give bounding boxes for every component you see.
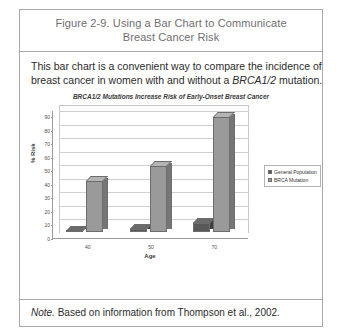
y-tick-label: 40 [44, 182, 50, 188]
chart-title: BRCA1/2 Mutations Increase Risk of Early… [26, 93, 316, 100]
y-tick-mark [51, 171, 53, 172]
bar [150, 166, 167, 232]
caption-line-1: This bar chart is a convenient way to co… [31, 59, 311, 73]
y-tick-label: 60 [44, 155, 50, 161]
y-tick-mark [51, 239, 53, 240]
bar [193, 223, 210, 232]
caption-gene-name: BRCA1/2 [232, 74, 276, 86]
note-lead: Note. [31, 307, 55, 318]
x-tick-label: 50 [148, 244, 154, 250]
legend-item: BRCA Mutation [268, 176, 317, 184]
bar-front-face [213, 117, 230, 232]
y-tick-mark [51, 117, 53, 118]
legend-item: General Population [268, 168, 317, 176]
y-tick-mark [51, 131, 53, 132]
legend-swatch-icon [268, 178, 272, 182]
caption-line-2: breast cancer in women with and without … [31, 73, 311, 87]
y-tick-label: 0 [47, 236, 50, 242]
bar [66, 231, 83, 233]
figure-note: Note. Based on information from Thompson… [20, 299, 322, 326]
note-body: Based on information from Thompson et al… [55, 307, 280, 318]
x-tick-label: 40 [85, 244, 91, 250]
bar-side-face [103, 178, 108, 230]
caption-line-2-lead: breast cancer in women with and without … [31, 74, 232, 86]
bar-front-face [130, 229, 147, 232]
figure-title-line-1: Figure 2-9. Using a Bar Chart to Communi… [32, 16, 310, 30]
bar-side-face [230, 114, 235, 229]
y-tick-label: 90 [44, 114, 50, 120]
bar-front-face [86, 181, 103, 233]
bar [213, 117, 230, 232]
bar-front-face [193, 223, 210, 232]
y-tick-label: 80 [44, 128, 50, 134]
bar [86, 181, 103, 233]
x-tick-label: 70 [212, 244, 218, 250]
y-tick-mark [51, 225, 53, 226]
y-tick-label: 70 [44, 141, 50, 147]
figure-container: Figure 2-9. Using a Bar Chart to Communi… [19, 9, 323, 327]
y-tick-mark [51, 144, 53, 145]
chart-plot-area: 0102030405060708090 405070 [52, 111, 248, 239]
caption-line-2-tail: mutation. [276, 74, 322, 86]
x-axis-label: Age [52, 253, 248, 259]
y-tick-label: 30 [44, 195, 50, 201]
y-tick-label: 50 [44, 168, 50, 174]
chart-legend: General PopulationBRCA Mutation [264, 165, 321, 187]
legend-label: BRCA Mutation [274, 177, 308, 183]
y-tick-mark [51, 212, 53, 213]
figure-caption: This bar chart is a convenient way to co… [20, 52, 322, 89]
y-tick-label: 20 [44, 209, 50, 215]
bar [130, 229, 147, 232]
y-tick-label: 10 [44, 222, 50, 228]
y-tick-mark [51, 158, 53, 159]
figure-header: Figure 2-9. Using a Bar Chart to Communi… [20, 10, 322, 52]
legend-swatch-icon [268, 170, 272, 174]
legend-label: General Population [274, 169, 317, 175]
bar-side-face [167, 163, 172, 229]
figure-title-line-2: Breast Cancer Risk [32, 30, 310, 44]
bar-chart: BRCA1/2 Mutations Increase Risk of Early… [26, 93, 316, 273]
y-tick-mark [51, 185, 53, 186]
y-axis-label: % Risk [30, 143, 36, 163]
bar-front-face [150, 166, 167, 232]
y-tick-mark [51, 198, 53, 199]
